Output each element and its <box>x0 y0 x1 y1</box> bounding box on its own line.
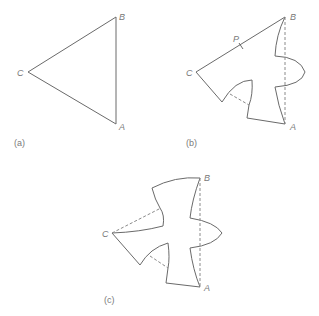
triangle-abc <box>28 17 116 124</box>
label-b: B <box>204 173 210 183</box>
cut-line-b <box>230 94 249 105</box>
caption-c: (c) <box>104 295 115 305</box>
panel-a: B C A (a) <box>14 12 125 148</box>
label-c: C <box>17 68 24 78</box>
label-c: C <box>102 229 109 239</box>
label-p: P <box>233 34 239 44</box>
original-edge-bc <box>112 208 161 233</box>
cut-line-c <box>150 256 168 268</box>
label-b: B <box>290 12 296 22</box>
tessellation-figure: B C A (a) P B C A (b) B C A (c) <box>0 0 319 316</box>
caption-b: (b) <box>186 138 197 148</box>
panel-b: P B C A (b) <box>186 12 305 148</box>
panel-c: B C A (c) <box>102 173 222 305</box>
label-b: B <box>119 12 125 22</box>
label-a: A <box>118 122 125 132</box>
modified-shape-c <box>112 178 222 287</box>
label-c: C <box>186 68 193 78</box>
label-a: A <box>289 122 296 132</box>
modified-shape-b <box>196 17 305 124</box>
caption-a: (a) <box>14 138 25 148</box>
label-a: A <box>203 283 210 293</box>
